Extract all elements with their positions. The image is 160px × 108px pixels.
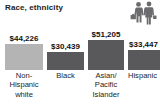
category-label-hispanic: Hispanic (125, 71, 160, 80)
bar-column-non-hispanic-white: $44,226 (5, 0, 43, 70)
category-line: Hispanic (2, 80, 46, 89)
bar-value-black: $30,439 (41, 42, 90, 51)
category-line: Black (46, 71, 85, 80)
category-line: Hispanic (125, 71, 160, 80)
plot-area: $44,226 $30,439 $51,205 $33,447 (0, 0, 160, 70)
bar-column-asian-pacific-islander: $51,205 (88, 0, 124, 70)
race-ethnicity-bar-chart: Race, ethnicity $44,226 $30,43 (0, 0, 160, 108)
bar-asian-pacific-islander (88, 40, 124, 70)
bar-value-hispanic: $33,447 (126, 40, 160, 49)
bar-hispanic (128, 50, 160, 70)
category-line: Non- (2, 71, 46, 80)
category-line: Islander (86, 90, 126, 99)
bar-black (47, 52, 84, 70)
category-axis-labels: Non- Hispanic white Black Asian/ Pacific… (0, 71, 160, 108)
bar-column-black: $30,439 (47, 0, 84, 70)
category-line: white (2, 90, 46, 99)
category-line: Asian/ (86, 71, 126, 80)
category-line: Pacific (86, 80, 126, 89)
bar-value-asian-pacific-islander: $51,205 (82, 30, 130, 39)
bar-column-hispanic: $33,447 (128, 0, 160, 70)
bar-non-hispanic-white (5, 44, 43, 70)
category-label-black: Black (46, 71, 85, 80)
category-label-non-hispanic-white: Non- Hispanic white (2, 71, 46, 99)
category-label-asian-pacific-islander: Asian/ Pacific Islander (86, 71, 126, 99)
